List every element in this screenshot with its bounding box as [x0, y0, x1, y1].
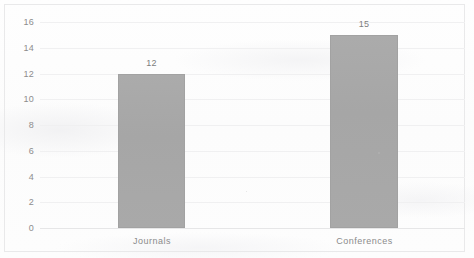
gridline-2 [40, 202, 465, 203]
bar-value-label-journals: 12 [118, 58, 185, 68]
bar-chart-figure: 16 14 12 10 8 6 4 2 0 12 Journals 15 Con… [0, 0, 474, 258]
gridline-6 [40, 151, 465, 152]
gridline-16 [40, 22, 465, 23]
y-tick-label-2: 2 [8, 197, 34, 207]
gridline-14 [40, 48, 465, 49]
y-tick-label-0: 0 [8, 223, 34, 233]
y-tick-label-8: 8 [8, 120, 34, 130]
y-tick-label-16: 16 [8, 17, 34, 27]
y-axis-tick-labels: 16 14 12 10 8 6 4 2 0 [0, 0, 34, 258]
gridline-10 [40, 99, 465, 100]
y-tick-label-12: 12 [8, 69, 34, 79]
gridlines-group [40, 0, 465, 258]
bar-category-label-conferences: Conferences [313, 236, 416, 247]
y-tick-label-14: 14 [8, 43, 34, 53]
y-tick-label-6: 6 [8, 146, 34, 156]
gridline-4 [40, 177, 465, 178]
y-tick-label-10: 10 [8, 94, 34, 104]
gridline-12 [40, 74, 465, 75]
gridline-0-baseline [40, 228, 465, 229]
gridline-8 [40, 125, 465, 126]
bar-value-label-conferences: 15 [330, 19, 398, 29]
y-tick-label-4: 4 [8, 172, 34, 182]
bar-category-label-journals: Journals [105, 236, 199, 247]
bar-conferences[interactable] [330, 35, 398, 228]
bar-journals[interactable] [118, 74, 185, 228]
